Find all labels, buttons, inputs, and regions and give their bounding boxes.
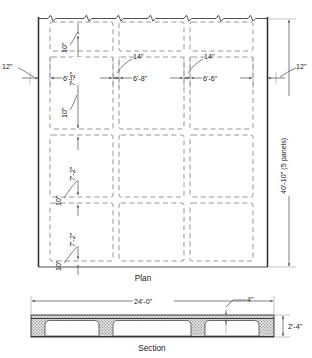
dim-edge-right-leader (280, 68, 296, 77)
dim-edge-right-label: 12" (296, 62, 307, 71)
dim-rib-c-label: 10" (54, 260, 63, 271)
dim-rib-1-label: 14" (133, 52, 144, 61)
dim-overall-height-label: 40'-10" (5 panels) (279, 138, 288, 194)
engineering-drawing: 12" 6'-6" 14" 6'-8" 14" (0, 0, 312, 358)
plan-caption: Plan (135, 274, 152, 283)
dim-section-width-label: 24'-0" (134, 297, 153, 306)
void-cell (119, 203, 184, 261)
plan-vertical-dimension-string: 10" 7'-2" 10" 7'-2" 10" 7'-2" (54, 23, 83, 275)
dim-panel-2-label: 7'-2" (68, 166, 77, 181)
dim-rib-a-leader (70, 95, 77, 110)
void-cell (190, 57, 253, 129)
plan-horizontal-dimension-string: 12" 6'-6" 14" 6'-8" 14" (2, 52, 307, 88)
section-caption: Section (138, 344, 166, 353)
void-cell (119, 135, 184, 197)
dim-section-depth-label: 2'-4" (288, 322, 303, 331)
dim-edge-left-leader (18, 68, 34, 77)
section-depth-dimension: 2'-4" (274, 315, 303, 337)
dim-bay-3-label: 6'-6" (203, 74, 218, 83)
dim-rib-top-leader (70, 33, 77, 45)
void-cell (190, 203, 253, 261)
dim-edge-left-label: 12" (2, 62, 13, 71)
dim-slab-thickness-label: 4" (247, 295, 254, 304)
void-cell (119, 22, 184, 51)
plan-overall-height-dimension: 40'-10" (5 panels) (268, 19, 296, 267)
dim-rib-2-label: 14" (204, 52, 215, 61)
section-view: 24'-0" 4" 2 (31, 295, 303, 353)
dim-rib-b-label: 10" (54, 195, 63, 206)
figure-svg: 12" 6'-6" 14" 6'-8" 14" (0, 0, 312, 358)
dim-panel-3-label: 7'-2" (68, 232, 77, 247)
plan-top-break-line (39, 15, 268, 21)
dim-rib-top-label: 10" (60, 42, 69, 53)
dim-panel-1-label: 7'-2" (68, 71, 77, 86)
section-void (45, 321, 99, 337)
dim-bay-2-label: 6'-8" (133, 74, 148, 83)
section-width-dimension: 24'-0" (31, 295, 274, 314)
void-cell (190, 22, 253, 51)
plan-view: 12" 6'-6" 14" 6'-8" 14" (2, 15, 307, 283)
dim-rib-b-leader (64, 181, 77, 198)
void-cell (119, 57, 184, 129)
void-cell (190, 135, 253, 197)
section-void (205, 321, 259, 337)
section-void (113, 321, 191, 337)
dim-rib-a-label: 10" (60, 107, 69, 118)
